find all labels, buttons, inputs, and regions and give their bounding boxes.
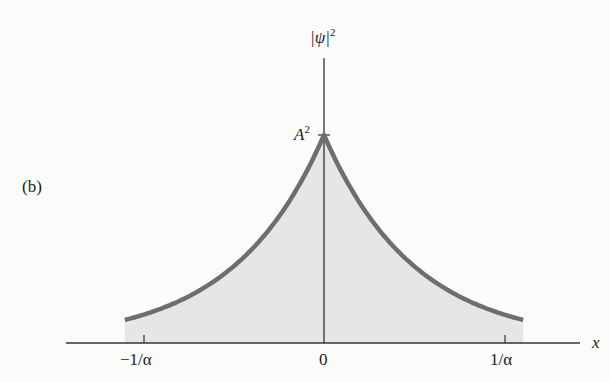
tick-label-neg-inv-alpha: −1/α xyxy=(120,350,152,370)
wavefunction-plot xyxy=(0,0,610,382)
peak-label: A2 xyxy=(294,123,310,145)
y-axis-label: |ψ|2 xyxy=(310,26,335,48)
x-axis-label: x xyxy=(592,333,600,353)
tick-label-pos-inv-alpha: 1/α xyxy=(490,350,512,370)
panel-label: (b) xyxy=(22,177,42,197)
tick-label-zero: 0 xyxy=(319,350,328,370)
